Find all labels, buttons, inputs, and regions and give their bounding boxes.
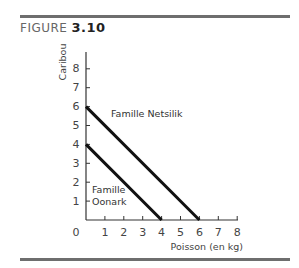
oonark-label-line1: Famille xyxy=(92,184,126,195)
svg-text:8: 8 xyxy=(73,62,80,75)
chart: 1 2 3 4 5 6 7 8 0 1 2 3 4 5 6 7 8 Caribo… xyxy=(0,0,299,268)
svg-text:6: 6 xyxy=(196,226,203,239)
svg-text:7: 7 xyxy=(73,81,80,94)
svg-text:1: 1 xyxy=(101,226,108,239)
x-tick-labels: 0 1 2 3 4 5 6 7 8 xyxy=(73,226,241,239)
svg-text:4: 4 xyxy=(73,138,80,151)
svg-text:7: 7 xyxy=(215,226,222,239)
svg-text:6: 6 xyxy=(73,100,80,113)
netsilik-label: Famille Netsilik xyxy=(111,108,183,119)
svg-text:2: 2 xyxy=(73,176,80,189)
oonark-label-line2: Oonark xyxy=(92,196,127,207)
svg-text:3: 3 xyxy=(73,157,80,170)
bottom-rule xyxy=(20,258,290,261)
svg-text:0: 0 xyxy=(73,226,80,239)
svg-text:5: 5 xyxy=(177,226,184,239)
svg-text:8: 8 xyxy=(234,226,241,239)
svg-text:2: 2 xyxy=(120,226,127,239)
y-axis-title: Caribou xyxy=(57,44,68,81)
svg-text:4: 4 xyxy=(158,226,165,239)
svg-text:3: 3 xyxy=(139,226,146,239)
y-tick-labels: 1 2 3 4 5 6 7 8 xyxy=(73,62,80,208)
x-axis-title: Poisson (en kg) xyxy=(171,241,243,252)
oonark-line xyxy=(86,144,162,220)
svg-text:5: 5 xyxy=(73,119,80,132)
svg-text:1: 1 xyxy=(73,195,80,208)
